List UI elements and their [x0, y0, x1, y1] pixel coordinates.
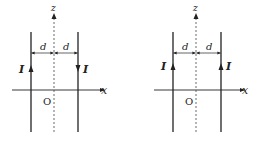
- distance-label-left: d: [182, 41, 188, 52]
- diagram-right: x z I I d d O: [154, 3, 249, 132]
- origin-label: O: [185, 96, 193, 107]
- diagram-left: x z I I d d O: [12, 3, 108, 132]
- current-down-arrow-icon: [76, 65, 81, 72]
- z-axis-arrow-icon: [194, 13, 199, 19]
- z-axis-arrow-icon: [52, 13, 57, 19]
- diagram-canvas: x z I I d d O x z I I d d O: [0, 0, 265, 147]
- current-label-right: I: [225, 60, 232, 73]
- z-axis-label: z: [50, 3, 56, 13]
- origin-label: O: [43, 96, 51, 107]
- distance-label-right: d: [63, 41, 69, 52]
- x-axis-label: x: [242, 84, 249, 97]
- current-up-arrow-icon: [171, 63, 176, 70]
- current-up-arrow-icon: [29, 65, 34, 72]
- distance-label-right: d: [206, 41, 212, 52]
- x-axis-label: x: [101, 84, 108, 97]
- current-label-right: I: [82, 63, 89, 76]
- current-label-left: I: [160, 60, 167, 73]
- z-axis-label: z: [192, 3, 198, 13]
- current-label-left: I: [18, 63, 25, 76]
- current-up-arrow-icon: [219, 63, 224, 70]
- distance-label-left: d: [40, 41, 46, 52]
